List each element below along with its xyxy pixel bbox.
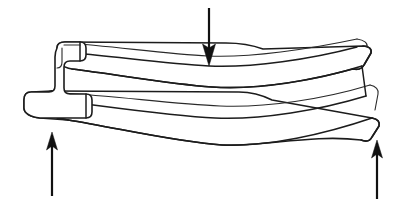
bending-diagram-canvas <box>0 0 418 202</box>
beam-specimen <box>24 39 379 145</box>
support-reaction-right-arrow <box>372 140 383 199</box>
bending-diagram-figure: Three-point bending of an I-section beam <box>0 0 418 202</box>
right-end-web-edge <box>362 66 366 96</box>
support-reaction-left-arrow <box>47 132 58 196</box>
right-end-bottom-highlight <box>370 85 378 110</box>
left-end-i-section-profile <box>24 42 92 118</box>
